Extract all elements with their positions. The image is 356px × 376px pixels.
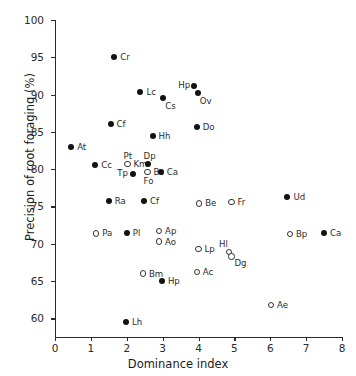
x-tick-label-6: 6 bbox=[260, 343, 280, 353]
data-point-Bm-31 bbox=[140, 270, 146, 276]
data-point-Lp-28 bbox=[195, 246, 201, 252]
data-point-Hp-1 bbox=[191, 83, 197, 89]
data-point-label-Hp-1: Hp bbox=[178, 81, 190, 90]
data-point-Be-19 bbox=[196, 200, 202, 206]
x-tick-1 bbox=[91, 337, 92, 341]
data-point-Tp-15 bbox=[130, 171, 136, 177]
x-tick-label-4: 4 bbox=[189, 343, 209, 353]
data-point-label-Hl-29: Hl bbox=[219, 240, 228, 249]
data-point-Cf-18 bbox=[141, 198, 147, 204]
x-tick-label-3: 3 bbox=[153, 343, 173, 353]
data-point-label-Pa-22: Pa bbox=[102, 229, 112, 238]
data-point-Pt-10 bbox=[124, 161, 130, 167]
x-tick-8 bbox=[342, 337, 343, 341]
data-point-Hh-7 bbox=[150, 133, 156, 139]
data-point-label-Fr-20: Fr bbox=[238, 198, 246, 207]
data-point-label-Cs-4: Cs bbox=[165, 102, 175, 111]
x-tick-label-0: 0 bbox=[45, 343, 65, 353]
data-point-label-Hh-7: Hh bbox=[159, 132, 171, 141]
data-point-Ud-21 bbox=[284, 194, 290, 200]
y-tick-label-100: 100 bbox=[18, 15, 44, 25]
data-point-Lc-3 bbox=[137, 89, 143, 95]
data-point-label-Ra-17: Ra bbox=[115, 197, 126, 206]
data-point-Pl-23 bbox=[124, 230, 130, 236]
x-tick-2 bbox=[127, 337, 128, 341]
data-point-label-Ca-27: Ca bbox=[330, 229, 341, 238]
data-point-Cs-4 bbox=[160, 95, 166, 101]
x-tick-label-2: 2 bbox=[117, 343, 137, 353]
y-tick-label-65: 65 bbox=[18, 276, 44, 286]
data-point-label-Lp-28: Lp bbox=[205, 245, 215, 254]
data-point-Ca-27 bbox=[321, 230, 327, 236]
x-tick-7 bbox=[306, 337, 307, 341]
data-point-Bs-13 bbox=[144, 169, 150, 175]
x-tick-4 bbox=[199, 337, 200, 341]
data-point-Ac-32 bbox=[194, 269, 200, 275]
data-point-label-Pl-23: Pl bbox=[133, 229, 141, 238]
data-point-Hp-33 bbox=[159, 278, 165, 284]
data-point-Cr-0 bbox=[111, 54, 117, 60]
data-point-label-Ud-21: Ud bbox=[293, 193, 305, 202]
data-point-Ap-24 bbox=[156, 228, 162, 234]
data-point-Lh-35 bbox=[123, 319, 129, 325]
data-point-label-Fo-14: Fo bbox=[144, 177, 154, 186]
data-point-label-Cc-9: Cc bbox=[101, 161, 112, 170]
data-point-Cf-6 bbox=[108, 121, 114, 127]
data-point-Cc-9 bbox=[92, 162, 98, 168]
data-point-label-Ae-34: Ae bbox=[277, 301, 288, 310]
data-point-label-Do-5: Do bbox=[203, 123, 215, 132]
data-point-label-Hp-33: Hp bbox=[168, 277, 180, 286]
data-point-label-Cr-0: Cr bbox=[120, 53, 130, 62]
x-tick-label-1: 1 bbox=[81, 343, 101, 353]
data-point-label-Bm-31: Bm bbox=[149, 270, 163, 279]
data-point-label-Ca-16: Ca bbox=[167, 168, 178, 177]
x-tick-label-8: 8 bbox=[332, 343, 352, 353]
data-point-label-Ap-24: Ap bbox=[165, 227, 176, 236]
data-point-label-Lc-3: Lc bbox=[146, 88, 156, 97]
data-point-label-Cf-18: Cf bbox=[150, 197, 159, 206]
x-tick-label-7: 7 bbox=[296, 343, 316, 353]
data-point-label-Ov-2: Ov bbox=[200, 97, 212, 106]
data-point-Do-5 bbox=[194, 124, 200, 130]
data-point-Fr-20 bbox=[228, 199, 234, 205]
data-point-label-Ao-25: Ao bbox=[165, 238, 176, 247]
data-point-label-Tp-15: Tp bbox=[117, 169, 128, 178]
data-point-label-Cf-6: Cf bbox=[117, 120, 126, 129]
data-point-Ra-17 bbox=[106, 198, 112, 204]
data-point-label-Ac-32: Ac bbox=[203, 268, 213, 277]
data-point-label-Be-19: Be bbox=[205, 199, 216, 208]
data-point-label-Bp-26: Bp bbox=[296, 230, 307, 239]
x-tick-0 bbox=[55, 337, 56, 341]
data-point-Ae-34 bbox=[268, 302, 274, 308]
data-point-Pa-22 bbox=[93, 230, 99, 236]
x-tick-label-5: 5 bbox=[224, 343, 244, 353]
x-axis-title: Dominance index bbox=[0, 357, 356, 371]
data-point-label-Pt-10: Pt bbox=[123, 152, 132, 161]
data-point-label-Dg-30: Dg bbox=[235, 259, 247, 268]
data-point-label-Dp-12: Dp bbox=[144, 152, 156, 161]
data-point-Dp-12 bbox=[145, 161, 151, 167]
data-point-label-Lh-35: Lh bbox=[132, 318, 142, 327]
data-point-Bp-26 bbox=[287, 231, 293, 237]
data-point-At-8 bbox=[68, 144, 74, 150]
data-point-Ao-25 bbox=[156, 238, 162, 244]
data-point-Ca-16 bbox=[158, 169, 164, 175]
scatter-plot-figure: 6065707580859095100 012345678 CrHpOvLcCs… bbox=[0, 0, 356, 376]
plot-data-area: CrHpOvLcCsDoCfHhAtCcPtKmDpBsFoTpCaRaCfBe… bbox=[55, 20, 342, 337]
x-tick-3 bbox=[163, 337, 164, 341]
x-tick-6 bbox=[270, 337, 271, 341]
y-axis-title: Precision of root foraging (%) bbox=[23, 42, 37, 272]
x-tick-5 bbox=[234, 337, 235, 341]
data-point-label-At-8: At bbox=[77, 143, 86, 152]
y-tick-label-60: 60 bbox=[18, 313, 44, 323]
